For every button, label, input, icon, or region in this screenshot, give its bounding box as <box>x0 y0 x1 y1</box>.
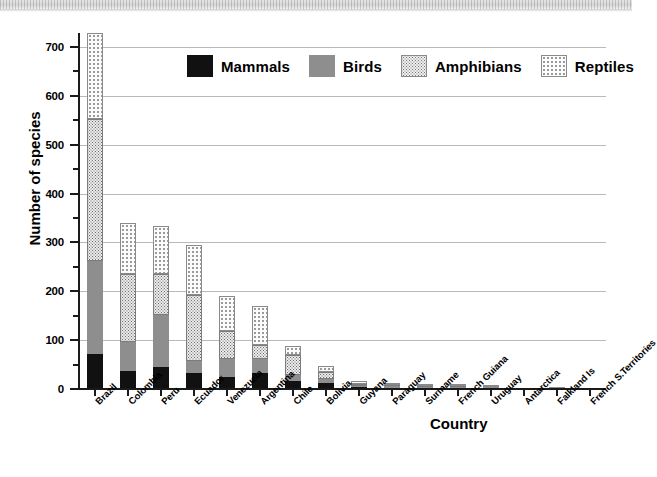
x-tick-label-peru: Peru <box>159 384 181 406</box>
x-tick-label-suriname: Suriname <box>423 369 461 407</box>
legend-item-mammals[interactable]: Mammals <box>187 55 290 77</box>
x-tick-label-paraguay: Paraguay <box>390 369 427 406</box>
x-tick-label-french-s-territories: French S.Territories <box>588 337 657 407</box>
x-tick-label-chile: Chile <box>291 383 315 407</box>
amphibians-swatch-icon <box>401 55 427 77</box>
reptiles-swatch-icon <box>541 55 567 77</box>
mammals-swatch-icon <box>187 55 213 77</box>
legend-item-amphibians[interactable]: Amphibians <box>401 55 522 77</box>
legend-item-reptiles[interactable]: Reptiles <box>541 55 634 77</box>
x-axis-title: Country <box>430 415 488 432</box>
x-tick-label-brazil: Brazil <box>93 381 119 407</box>
x-tick-label-guyana: Guyana <box>357 375 389 407</box>
legend-label-reptiles: Reptiles <box>575 58 634 75</box>
x-tick-label-colombia: Colombia <box>126 369 164 407</box>
birds-swatch-icon <box>309 55 335 77</box>
legend-label-amphibians: Amphibians <box>435 58 522 75</box>
x-tick-label-ecuador: Ecuador <box>192 373 226 407</box>
x-tick-label-bolivia: Bolivia <box>324 377 353 406</box>
x-tick-label-uruguay: Uruguay <box>489 372 524 407</box>
legend-label-mammals: Mammals <box>221 58 290 75</box>
legend-label-birds: Birds <box>343 58 382 75</box>
x-tick-label-antarctica: Antarctica <box>522 367 562 407</box>
legend-item-birds[interactable]: Birds <box>309 55 382 77</box>
chart-legend: Mammals Birds Amphibians Reptiles <box>187 55 653 77</box>
